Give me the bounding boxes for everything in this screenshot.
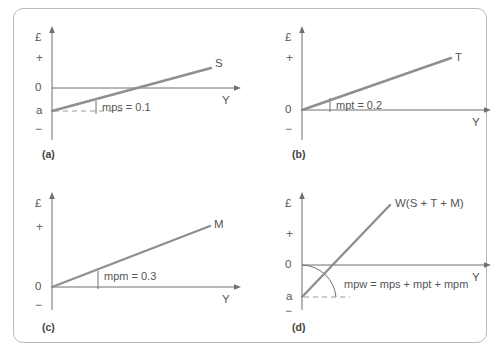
- panel-c: £ + 0 − M Y mpm = 0.3 (c): [0, 178, 250, 355]
- slope-annotation-d: mpw = mps + mpt + mpm: [344, 279, 468, 290]
- figure-container: £ + 0 a − S Y mps = 0.1 (a) £ + 0 − T Y …: [0, 0, 500, 355]
- panel-b: £ + 0 − T Y mpt = 0.2 (b): [250, 0, 500, 178]
- plus-sign-a: +: [36, 53, 43, 64]
- zero-label-c: 0: [35, 281, 41, 292]
- curve-label-s: S: [215, 58, 223, 69]
- slope-annotation-b: mpt = 0.2: [336, 100, 382, 111]
- panel-b-plot: [250, 0, 500, 178]
- slope-annotation-c: mpm = 0.3: [104, 271, 156, 282]
- x-axis-arrow-a: [234, 85, 241, 91]
- zero-label-a: 0: [35, 82, 41, 93]
- x-axis-arrow-c: [234, 284, 241, 290]
- x-axis-label-a: Y: [222, 95, 230, 106]
- plus-sign-d: +: [286, 229, 293, 240]
- panel-label-b: (b): [292, 149, 305, 160]
- panel-label-a: (a): [42, 149, 55, 160]
- intercept-label-a: a: [36, 105, 42, 116]
- y-axis-label-b: £: [285, 32, 291, 43]
- minus-sign-a: −: [35, 124, 42, 135]
- panel-label-d: (d): [292, 322, 305, 333]
- plus-sign-b: +: [286, 53, 293, 64]
- intercept-label-d: a: [286, 291, 292, 302]
- plus-sign-c: +: [36, 222, 43, 233]
- x-axis-label-b: Y: [472, 117, 480, 128]
- curve-label-w: W(S + T + M): [395, 198, 464, 209]
- minus-sign-c: −: [35, 300, 42, 311]
- curve-label-m: M: [214, 219, 224, 230]
- slope-annotation-a: mps = 0.1: [102, 102, 151, 113]
- y-axis-label-c: £: [35, 198, 41, 209]
- y-axis-label-d: £: [285, 198, 291, 209]
- x-axis-arrow-b: [484, 107, 491, 113]
- zero-label-d: 0: [285, 259, 291, 270]
- minus-sign-d: −: [285, 306, 292, 317]
- panel-label-c: (c): [42, 322, 55, 333]
- y-axis-arrow-c: [49, 192, 55, 199]
- y-axis-arrow-d: [299, 192, 305, 199]
- zero-label-b: 0: [285, 104, 291, 115]
- panel-a: £ + 0 a − S Y mps = 0.1 (a): [0, 0, 250, 178]
- x-axis-label-c: Y: [222, 294, 230, 305]
- x-axis-label-d: Y: [472, 272, 480, 283]
- curve-label-t: T: [455, 52, 462, 63]
- x-axis-arrow-d: [484, 262, 491, 268]
- panel-d: £ + 0 a − W(S + T + M) Y mpw = mps + mpt…: [250, 178, 500, 355]
- y-axis-arrow-b: [299, 26, 305, 33]
- y-axis-arrow-a: [49, 26, 55, 33]
- minus-sign-b: −: [285, 124, 292, 135]
- y-axis-label-a: £: [35, 32, 41, 43]
